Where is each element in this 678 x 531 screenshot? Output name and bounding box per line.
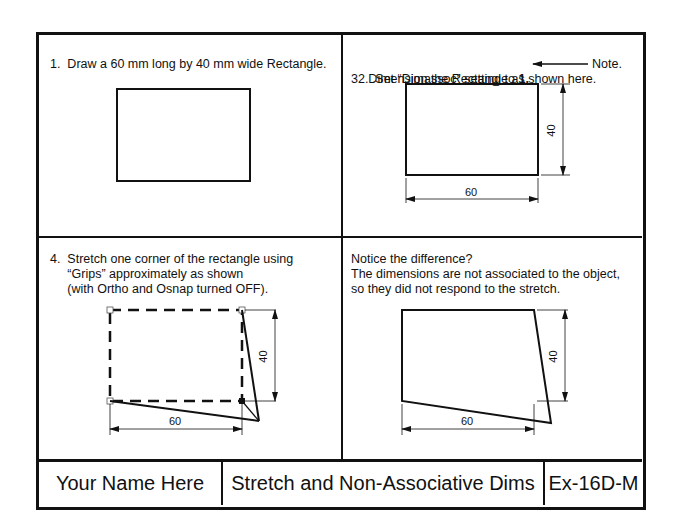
panel-3-drawing: [107, 307, 276, 435]
panel-4-drawing: [402, 310, 568, 435]
panel-2-dim-width: 40: [544, 124, 559, 136]
panel-4-dim-length: 60: [461, 414, 473, 429]
panel-2-dim-length: 60: [465, 185, 477, 200]
panel-3-dim-width: 40: [256, 350, 271, 362]
drawings: [0, 0, 678, 531]
panel-3-dim-length: 60: [169, 414, 181, 429]
title-block-title: Stretch and Non-Associative Dims: [223, 462, 543, 504]
panel-1-rectangle: [117, 89, 250, 181]
title-block-name: Your Name Here: [39, 462, 221, 504]
panel-4-dim-width: 40: [546, 350, 561, 362]
title-block-exercise: Ex-16D-M: [545, 462, 642, 504]
panel-2-drawing: [406, 84, 570, 203]
grip-icon: [107, 307, 113, 313]
